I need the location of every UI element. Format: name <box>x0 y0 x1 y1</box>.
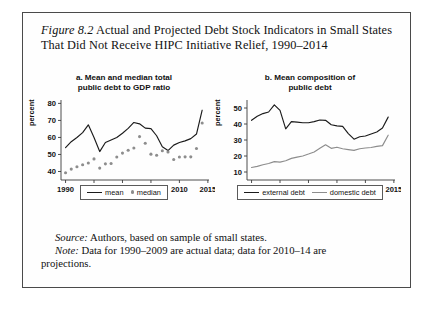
line-swatch-icon <box>244 192 259 193</box>
chart-a-title: a. Mean and median total public debt to … <box>33 73 215 93</box>
note-line-cont: projections. <box>41 257 393 270</box>
chart-b-legend: external debt domestic debt <box>219 185 401 200</box>
chart-panel-a: a. Mean and median total public debt to … <box>33 73 215 218</box>
dot-swatch-icon <box>131 190 134 193</box>
svg-text:30: 30 <box>234 136 242 145</box>
chart-b-title-line1: b. Mean composition of <box>265 73 355 82</box>
figure-caption-text: Actual and Projected Debt Stock Indicato… <box>41 23 392 52</box>
chart-a-title-line2: public debt to GDP ratio <box>78 83 170 92</box>
note-label: Note: <box>55 244 79 256</box>
legend-label-mean: mean <box>105 188 124 197</box>
chart-a-title-line1: a. Mean and median total <box>76 73 172 82</box>
figure-frame: Figure 8.2 Actual and Projected Debt Sto… <box>22 12 411 288</box>
chart-b-ylabel: percent <box>213 100 222 127</box>
note-text: Data for 1990–2009 are actual data; data… <box>79 244 327 256</box>
legend-item-median: median <box>131 188 161 197</box>
figure-notes: Source: Authors, based on sample of smal… <box>41 231 393 271</box>
chart-b-plot-area: percent 10203040501990199520002005201020… <box>219 96 401 196</box>
chart-a-svg: 4050607080199019952000200520102015 <box>33 96 215 196</box>
source-text: Authors, based on sample of small states… <box>88 231 267 243</box>
note-line: Note: Data for 1990–2009 are actual data… <box>41 244 393 257</box>
svg-text:50: 50 <box>234 104 242 113</box>
chart-a-legend: mean median <box>33 185 215 200</box>
svg-text:50: 50 <box>48 151 56 160</box>
svg-text:80: 80 <box>48 100 56 109</box>
legend-label-median: median <box>137 188 161 197</box>
chart-b-title-line2: public debt <box>288 83 331 92</box>
line-swatch-grey-icon <box>312 192 327 193</box>
chart-b-title: b. Mean composition of public debt <box>219 73 401 93</box>
svg-text:10: 10 <box>234 168 242 177</box>
legend-label-domestic-debt: domestic debt <box>330 188 376 197</box>
chart-a-ylabel: percent <box>27 100 36 127</box>
figure-number: Figure 8.2 <box>41 23 93 37</box>
svg-text:70: 70 <box>48 117 56 126</box>
legend-item-external-debt: external debt <box>244 188 305 197</box>
chart-panel-b: b. Mean composition of public debt perce… <box>219 73 401 218</box>
svg-text:40: 40 <box>48 168 56 177</box>
chart-a-plot-area: percent 40506070801990199520002005201020… <box>33 96 215 196</box>
svg-text:40: 40 <box>234 120 242 129</box>
line-swatch-icon <box>87 192 102 193</box>
legend-item-mean: mean <box>87 188 124 197</box>
figure-caption: Figure 8.2 Actual and Projected Debt Sto… <box>41 23 393 52</box>
svg-text:60: 60 <box>48 134 56 143</box>
svg-text:20: 20 <box>234 152 242 161</box>
legend-label-external-debt: external debt <box>262 188 305 197</box>
chart-b-svg: 1020304050199019952000200520102015 <box>219 96 401 196</box>
legend-item-domestic-debt: domestic debt <box>312 188 376 197</box>
source-line: Source: Authors, based on sample of smal… <box>41 231 393 244</box>
source-label: Source: <box>55 231 88 243</box>
